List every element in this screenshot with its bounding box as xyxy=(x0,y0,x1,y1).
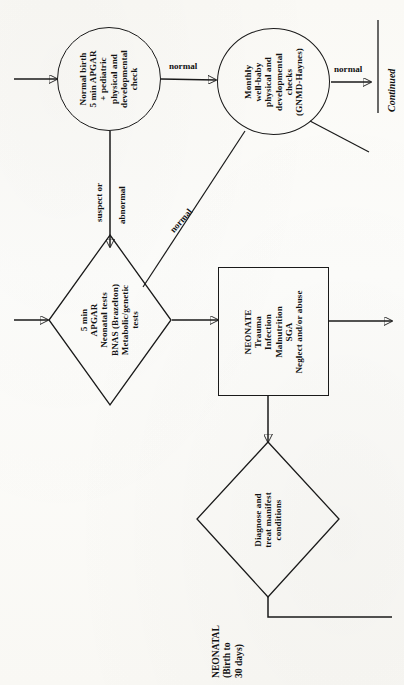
node-diagnose-treat-text: Diagnose and treat manifest conditions xyxy=(253,492,284,548)
node-normal-birth-text: Normal birth 5 min APGAR + pediatric phy… xyxy=(78,50,139,108)
node-monthly-checks[interactable]: Monthly well-baby physical and developme… xyxy=(217,28,330,135)
edge-diagnose-exit xyxy=(268,597,392,617)
edge-label-birth-to-monthly: normal xyxy=(169,61,197,71)
edge-label-abnormal: abnormal xyxy=(117,186,127,224)
continued-label: Continued xyxy=(386,69,397,112)
node-normal-birth[interactable]: Normal birth 5 min APGAR + pediatric phy… xyxy=(57,27,161,131)
node-monthly-checks-text: Monthly well-baby physical and developme… xyxy=(243,48,304,116)
node-neonatal-tests[interactable]: 5 min APGAR Neonatal tests BNAS (Brazelt… xyxy=(48,234,172,406)
stage-label-neonatal: NEONATAL (Birth to 30 days) xyxy=(210,625,244,678)
edge-label-monthly-to-continued: normal xyxy=(334,64,362,74)
node-neonatal-tests-text: 5 min APGAR Neonatal tests BNAS (Brazelt… xyxy=(79,284,140,356)
node-diagnose-treat[interactable]: Diagnose and treat manifest conditions xyxy=(196,441,340,598)
edge-monthly-stub xyxy=(310,121,369,152)
edge-label-suspect-or: suspect or xyxy=(94,183,104,222)
node-neonate-conditions[interactable]: NEONATE Trauma Infection Malnutrition SG… xyxy=(218,267,329,396)
node-neonate-conditions-text: NEONATE Trauma Infection Malnutrition SG… xyxy=(243,290,304,373)
flowchart-page: Normal birth 5 min APGAR + pediatric phy… xyxy=(0,0,404,685)
edge-normal-birth-to-monthly xyxy=(161,79,216,80)
